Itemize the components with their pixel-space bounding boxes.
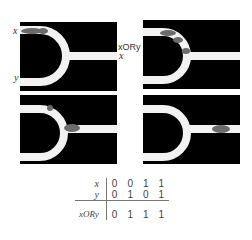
panel-bottom-right — [143, 95, 240, 164]
output-label-xory: xORy — [118, 42, 141, 52]
truth-table-row-y: y 0 1 0 1 — [75, 189, 169, 201]
particle-cluster — [212, 125, 230, 133]
panel-top-left — [20, 22, 117, 91]
input-label-y: y — [14, 72, 18, 83]
or-gate-channel-diagram — [143, 20, 240, 89]
panel-top-right — [143, 20, 240, 89]
or-gate-channel-diagram — [20, 95, 117, 164]
truth-table-row-result: xORy 0 1 1 1 — [75, 205, 169, 220]
panel-bottom-left — [20, 95, 117, 164]
or-gate-channel-diagram — [20, 22, 117, 91]
truth-table: x 0 0 1 1 y 0 1 0 1 xORy 0 1 1 1 — [75, 178, 169, 220]
input-label-x: x — [13, 25, 17, 36]
particle-cluster — [21, 28, 48, 34]
or-gate-channel-diagram — [143, 95, 240, 164]
truth-table-row-x: x 0 0 1 1 — [75, 178, 169, 189]
